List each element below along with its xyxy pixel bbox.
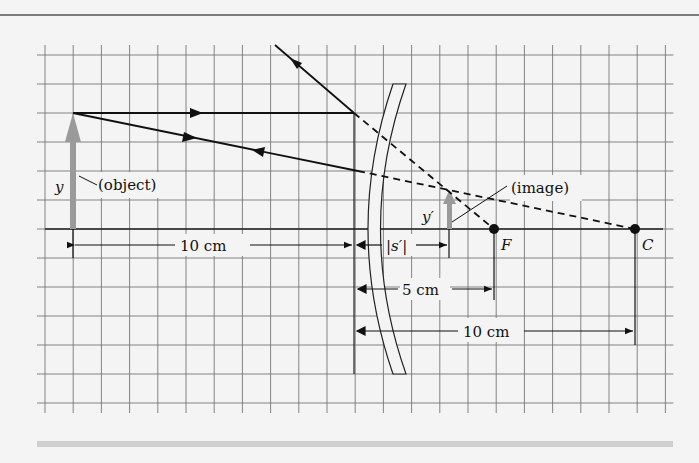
- ray-diagram: (object) y (image) y′ F C 10 cm |s′| 5 c…: [0, 0, 699, 463]
- bottom-band: [37, 441, 673, 447]
- image-arrow: [443, 190, 456, 229]
- image-distance-label: |s′|: [386, 237, 407, 255]
- focal-length-label: 5 cm: [402, 281, 439, 299]
- object-height-label: y: [54, 178, 64, 196]
- center-label: C: [642, 236, 654, 254]
- radius-label: 10 cm: [463, 323, 509, 341]
- object-label: (object): [98, 176, 156, 194]
- image-label: (image): [511, 179, 569, 197]
- focal-point-label: F: [500, 236, 512, 254]
- object-distance-label: 10 cm: [180, 237, 226, 255]
- ray-parallel: [73, 45, 494, 229]
- image-height-label: y′: [421, 208, 434, 226]
